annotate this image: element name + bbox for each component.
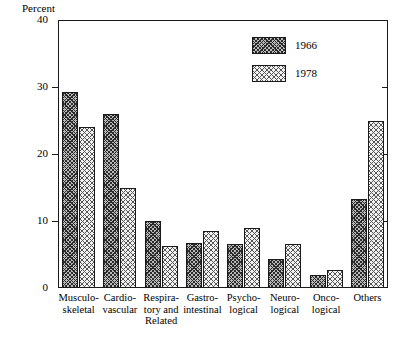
x-axis-label-line: logical [298,304,355,316]
bar-1966 [62,92,78,288]
y-tick-label-10: 10 [20,215,48,226]
y-tick-label-40: 40 [20,14,48,25]
bar-1966 [145,221,161,288]
bar-1966 [268,259,284,288]
y-tick-label-30: 30 [20,81,48,92]
legend: 1966 1978 [252,36,317,92]
bar-group [145,20,178,288]
bar-1978 [244,228,260,288]
bar-group [103,20,136,288]
bar-1978 [79,127,95,288]
bars-layer [58,20,388,288]
bar-1978 [368,121,384,289]
bar-1978 [162,246,178,288]
bar-1978 [285,244,301,288]
legend-label-1966: 1966 [295,40,317,51]
bar-1966 [103,114,119,288]
x-axis-labels: Musculo-skeletalCardio-vascularRespira-t… [58,292,388,342]
y-tick-label-0: 0 [20,282,48,293]
bar-group [351,20,384,288]
bar-1978 [327,270,343,288]
bar-1966 [351,199,367,288]
y-tick-label-20: 20 [20,148,48,159]
legend-item-1978: 1978 [252,64,317,83]
x-axis-label: Others [339,292,396,304]
bar-1966 [227,244,243,288]
bar-1966 [186,243,202,288]
bar-group [186,20,219,288]
bar-group [62,20,95,288]
bar-1978 [120,188,136,289]
legend-item-1966: 1966 [252,36,317,55]
legend-swatch-1966 [252,37,286,54]
legend-label-1978: 1978 [295,68,317,79]
legend-swatch-1978 [252,65,286,82]
bar-1978 [203,231,219,288]
x-axis-label-line: Others [339,292,396,304]
bar-1966 [310,275,326,288]
x-axis-label-line: Related [133,315,190,327]
bar-chart: Percent 010203040 1966 1978 Musculo-skel… [0,0,411,342]
